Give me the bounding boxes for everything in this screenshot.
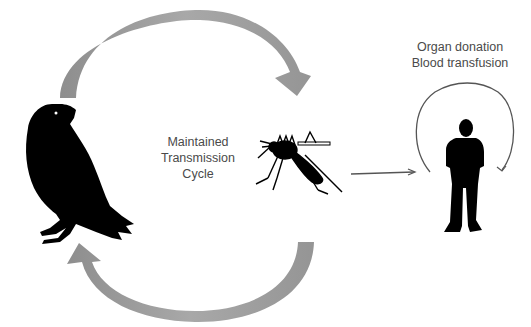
transmission-cycle-diagram: Maintained Transmission Cycle Organ dona… xyxy=(0,0,531,327)
top-cycle-arrow-icon xyxy=(60,10,311,98)
bottom-cycle-arrow-icon xyxy=(67,242,314,322)
bird-silhouette-icon xyxy=(26,104,134,244)
blood-transfusion-label: Blood transfusion xyxy=(395,55,525,71)
maintained-transmission-cycle-label: Maintained Transmission Cycle xyxy=(143,134,253,182)
cycle-label-line3: Cycle xyxy=(143,166,253,182)
cycle-label-line2: Transmission xyxy=(143,150,253,166)
human-silhouette-icon xyxy=(444,119,484,232)
human-transmission-routes-label: Organ donation Blood transfusion xyxy=(395,39,525,71)
cycle-label-line1: Maintained xyxy=(143,134,253,150)
mosquito-silhouette-icon xyxy=(256,132,342,194)
transmission-arrow-icon xyxy=(351,169,415,175)
organ-donation-label: Organ donation xyxy=(395,39,525,55)
